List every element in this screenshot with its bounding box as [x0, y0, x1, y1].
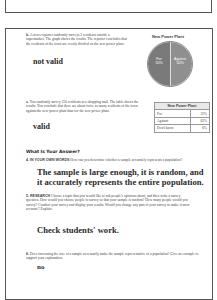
pie-label-against: Against 50% — [170, 57, 190, 65]
question-4-lead: IN YOUR OWN WORDS — [30, 158, 69, 162]
survey-results-table: New Power Plant For 32% Against 62% Don'… — [154, 102, 210, 133]
table-row: Don't know 6% — [155, 125, 210, 132]
pie-chart: For 50% Against 50% — [147, 41, 193, 87]
table-row: Against 62% — [155, 117, 210, 124]
table-row: For 32% — [155, 110, 210, 117]
table-header: New Power Plant — [155, 103, 210, 110]
question-4: 4. IN YOUR OWN WORDS How can you determi… — [26, 158, 206, 162]
question-b: b. A news reporter randomly surveys 2 re… — [26, 33, 128, 46]
answer-4: The sample is large enough, it is random… — [37, 168, 209, 187]
question-6: 6. Does increasing the size of a sample … — [26, 252, 206, 261]
previous-section-box — [5, 0, 212, 13]
answer-5: Check students' work. — [37, 225, 119, 235]
question-5: 5. RESEARCH Choose a topic that you woul… — [26, 194, 194, 211]
answer-c: valid — [33, 122, 50, 131]
question-6-prompt: Does increasing the size of a sample nec… — [26, 252, 198, 260]
section-title: What Is Your Answer? — [26, 149, 80, 154]
question-c-prompt: You randomly survey 250 residents at a s… — [26, 100, 138, 113]
pie-label-for: For 50% — [149, 57, 169, 65]
answer-6: no — [37, 263, 44, 271]
question-c: c. You randomly survey 250 residents at … — [26, 100, 144, 113]
answer-b: not valid — [33, 57, 63, 66]
question-b-prompt: A news reporter randomly surveys 2 resid… — [26, 33, 127, 46]
question-4-prompt: How can you determine whether a sample a… — [70, 158, 182, 162]
question-5-prompt: Choose a topic that you would like to as… — [26, 194, 190, 211]
pie-chart-title: New Power Plant — [138, 34, 198, 39]
